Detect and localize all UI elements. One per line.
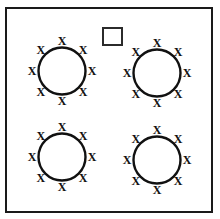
x-mark: X (174, 174, 183, 188)
x-mark: X (36, 43, 45, 57)
x-mark: X (174, 132, 183, 146)
x-mark: X (58, 34, 67, 48)
small-square-marker[interactable] (103, 28, 122, 45)
x-mark: X (88, 64, 97, 78)
diagram-canvas: X X X X X X X X X X X X X X X X (0, 0, 220, 219)
x-mark: X (183, 153, 192, 167)
x-mark: X (153, 36, 162, 50)
x-mark: X (131, 45, 140, 59)
x-mark: X (28, 150, 37, 164)
circle-group-top-right[interactable]: X X X X X X X X (123, 36, 192, 110)
x-mark: X (131, 132, 140, 146)
x-mark: X (28, 64, 37, 78)
x-mark: X (153, 123, 162, 137)
x-mark: X (79, 129, 88, 143)
x-mark: X (131, 87, 140, 101)
x-mark: X (183, 66, 192, 80)
x-mark: X (58, 120, 67, 134)
x-mark: X (79, 43, 88, 57)
x-mark: X (123, 153, 132, 167)
x-mark: X (58, 180, 67, 194)
x-mark: X (36, 85, 45, 99)
diagram-svg: X X X X X X X X X X X X X X X X (0, 0, 220, 219)
x-mark: X (36, 171, 45, 185)
x-mark: X (153, 183, 162, 197)
x-mark: X (174, 45, 183, 59)
x-mark: X (123, 66, 132, 80)
circle-group-bottom-left[interactable]: X X X X X X X X (28, 120, 97, 194)
x-mark: X (153, 96, 162, 110)
x-mark: X (174, 87, 183, 101)
x-mark: X (36, 129, 45, 143)
x-mark: X (58, 94, 67, 108)
x-mark: X (88, 150, 97, 164)
circle-group-top-left[interactable]: X X X X X X X X (28, 34, 97, 108)
x-mark: X (79, 85, 88, 99)
circle-group-bottom-right[interactable]: X X X X X X X X (123, 123, 192, 197)
x-mark: X (131, 174, 140, 188)
x-mark: X (79, 171, 88, 185)
